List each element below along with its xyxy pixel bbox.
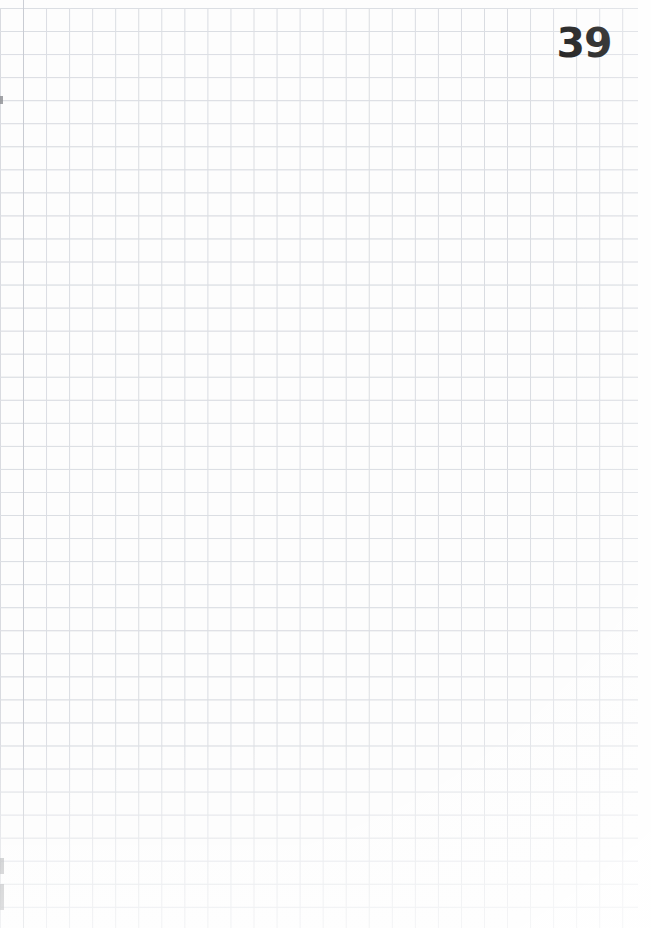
left-margin-rule <box>23 0 24 928</box>
graph-paper-grid-secondary <box>0 8 651 928</box>
binding-edge-artifact <box>0 884 4 910</box>
right-margin-strip <box>638 0 651 928</box>
page-number: 39 <box>556 20 612 66</box>
notebook-page: 39 <box>0 0 651 928</box>
binding-edge-artifact <box>0 96 3 104</box>
binding-edge-artifact <box>0 858 4 874</box>
